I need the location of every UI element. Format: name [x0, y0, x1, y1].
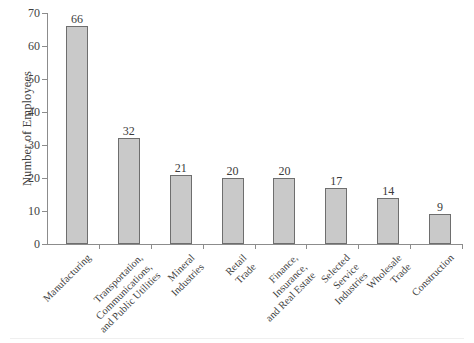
y-tick-label: 70 [28, 7, 40, 19]
bar-value-label: 17 [330, 175, 342, 187]
x-axis-label: MineralIndustries [159, 252, 206, 299]
plot-area: 010203040506070 663221202017149 [47, 13, 462, 244]
bar: 9 [429, 214, 451, 244]
bar-value-label: 32 [123, 125, 135, 137]
x-axis-label-line: Construction [410, 252, 457, 299]
y-axis-title: Number of Employees [20, 39, 35, 219]
bar-chart: Number of Employees 010203040506070 6632… [0, 0, 474, 343]
bar: 17 [325, 188, 347, 244]
x-axis-label: Manufacturing [41, 252, 94, 305]
bar: 32 [118, 138, 140, 244]
bar: 20 [222, 178, 244, 244]
x-axis-label: WholesaleTrade [365, 252, 414, 301]
bar-value-label: 66 [71, 13, 83, 25]
bar: 21 [170, 175, 192, 244]
bar-value-label: 9 [437, 201, 443, 213]
bar-value-label: 20 [278, 165, 290, 177]
bar: 66 [66, 26, 88, 244]
x-axis-label: RetailTrade [223, 252, 258, 287]
bar: 14 [377, 198, 399, 244]
bar-value-label: 20 [227, 165, 239, 177]
bar-value-label: 14 [382, 185, 394, 197]
bar-value-label: 21 [175, 162, 187, 174]
y-tick-label: 10 [28, 205, 40, 217]
y-tick-label: 40 [28, 106, 40, 118]
bar: 20 [273, 178, 295, 244]
y-tick-label: 50 [28, 73, 40, 85]
x-axis-label: Construction [410, 252, 457, 299]
y-tick-label: 60 [28, 40, 40, 52]
y-tick-label: 30 [28, 139, 40, 151]
x-tick-mark [462, 244, 463, 249]
x-axis-label: Finance,Insurance,and Real Estate [246, 252, 319, 325]
x-axis-label: Transportation,Communications,and Public… [79, 252, 163, 336]
y-tick-label: 20 [28, 172, 40, 184]
x-axis-label-line: Manufacturing [41, 252, 94, 305]
y-tick-label: 0 [34, 238, 40, 250]
bars-layer: 663221202017149 [47, 13, 462, 244]
x-axis-label: SelectedServiceIndustries [315, 252, 371, 308]
y-tick-mark [42, 244, 47, 245]
bottom-rule [10, 338, 464, 339]
x-axis-labels: ManufacturingTransportation,Communicatio… [47, 246, 462, 343]
